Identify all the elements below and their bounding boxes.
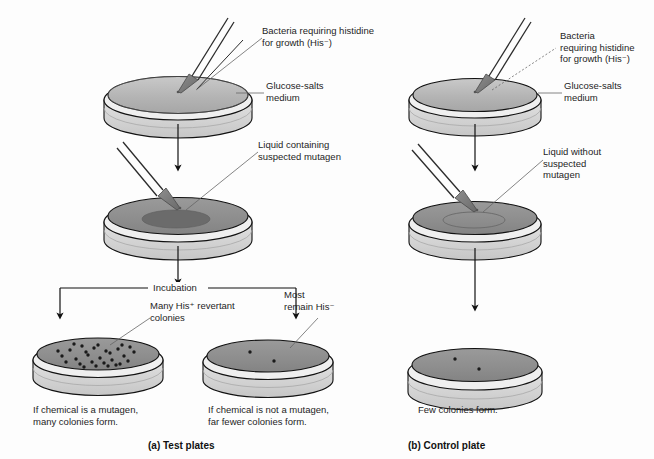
colony-dot (56, 349, 59, 352)
label-glucose-salts-right: Glucose-salts medium (564, 80, 622, 103)
colony-dot (114, 363, 117, 366)
label-liquid-without-mutagen: Liquid without suspected mutagen (543, 146, 601, 181)
petri-dish-test-many (33, 338, 163, 396)
colony-dot (72, 342, 75, 345)
colony-dot (132, 350, 135, 353)
colony-dot (102, 361, 105, 364)
colony-dot (118, 362, 121, 365)
caption-control-result: Few colonies form. (418, 404, 498, 416)
label-bacteria-left: Bacteria requiring histidine for growth … (262, 25, 374, 48)
caption-mutagen-negative: If chemical is not a mutagen, far fewer … (208, 404, 329, 428)
caption-mutagen-positive: If chemical is a mutagen, many colonies … (33, 404, 138, 428)
colony-dot (110, 358, 113, 361)
colony-dot (116, 347, 119, 350)
colony-dot (108, 351, 111, 354)
mutagen-spot-test (142, 210, 210, 228)
colony-dot (86, 353, 89, 356)
leader-line-liquid-control (483, 160, 543, 212)
colony-dot (122, 354, 125, 357)
petri-dish-control-result (408, 349, 542, 411)
colony-dot (74, 357, 77, 360)
colony-dot (84, 350, 87, 353)
label-most-remain: Most remain His⁻ (284, 289, 334, 312)
colony-dot (90, 360, 93, 363)
ames-test-diagram (0, 0, 654, 459)
colony-dot (248, 350, 251, 353)
colony-dot (477, 367, 480, 370)
label-liquid-with-mutagen: Liquid containing suspected mutagen (258, 139, 341, 162)
colony-dot (104, 349, 107, 352)
pipette-liquid-right (412, 144, 478, 212)
label-bacteria-right: Bacteria requiring histidine for growth … (560, 30, 634, 65)
petri-dish-test-few (203, 340, 333, 398)
colony-dot (98, 356, 101, 359)
colony-dot (60, 354, 63, 357)
panel-title-test-plates: (a) Test plates (148, 440, 215, 451)
colony-dot (128, 345, 131, 348)
colony-dot (78, 362, 81, 365)
label-incubation: Incubation (150, 282, 200, 293)
colony-dot (120, 343, 123, 346)
panel-title-control-plate: (b) Control plate (408, 440, 485, 451)
colony-dot (68, 348, 71, 351)
colony-dot (96, 343, 99, 346)
colony-dot (272, 359, 275, 362)
colony-dot (94, 364, 97, 367)
colony-dot (92, 346, 95, 349)
figure-canvas: Bacteria requiring histidine for growth … (0, 0, 654, 459)
colony-dot (106, 364, 109, 367)
colony-dot (453, 357, 456, 360)
colony-dot (80, 344, 83, 347)
label-many-revertant: Many His⁺ revertant colonies (150, 300, 235, 323)
colony-dot (64, 360, 67, 363)
label-glucose-salts-left: Glucose-salts medium (266, 80, 324, 103)
colony-dot (126, 359, 129, 362)
colony-dot (82, 365, 85, 368)
